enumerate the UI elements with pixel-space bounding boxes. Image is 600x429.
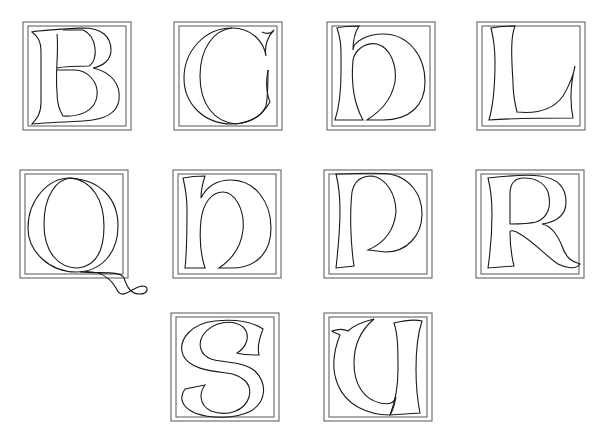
letter-c-icon bbox=[174, 22, 282, 130]
letter-r-icon bbox=[476, 170, 584, 278]
letter-n-icon bbox=[173, 170, 281, 278]
letter-tile-s: S bbox=[171, 313, 279, 421]
letter-q-icon bbox=[20, 170, 128, 278]
letter-tile-c: C bbox=[174, 22, 282, 130]
letter-b-icon bbox=[23, 22, 131, 130]
letter-p-icon bbox=[324, 170, 432, 278]
letter-tile-l: L bbox=[477, 22, 585, 130]
letter-l-icon bbox=[477, 22, 585, 130]
letter-tile-n: n bbox=[173, 170, 281, 278]
letter-tile-r: R bbox=[476, 170, 584, 278]
letter-tile-b: B bbox=[23, 22, 131, 130]
letter-u-icon bbox=[324, 313, 432, 421]
letter-s-icon bbox=[171, 313, 279, 421]
letter-tile-q: Q bbox=[20, 170, 128, 278]
letter-h-icon bbox=[327, 22, 435, 130]
letter-tile-u: U bbox=[324, 313, 432, 421]
letter-tile-p: P bbox=[324, 170, 432, 278]
letter-tile-h: h bbox=[327, 22, 435, 130]
